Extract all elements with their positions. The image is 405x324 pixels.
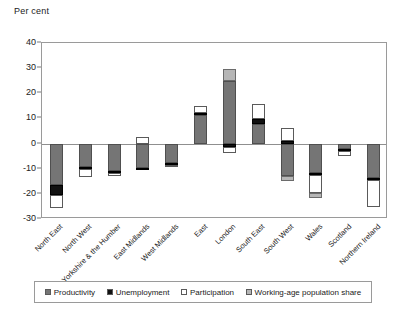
y-axis-tick-mark [37,167,41,168]
bar-segment-productivity[interactable] [252,124,265,144]
axis-unit-label: Per cent [14,6,49,16]
bar-segment-participation[interactable] [281,128,294,140]
bar-segment-working-age-population-share[interactable] [281,176,294,181]
bar-segment-unemployment[interactable] [194,113,207,115]
legend-swatch-icon [107,289,113,295]
bar-segment-participation[interactable] [309,175,322,193]
y-axis-tick-mark [37,67,41,68]
y-axis-tick-mark [37,218,41,219]
y-axis-tick-mark [37,192,41,193]
bar-segment-participation[interactable] [108,173,121,176]
bar-segment-participation[interactable] [136,137,149,144]
plot-area [42,43,386,217]
bar-group[interactable] [223,43,236,217]
legend-swatch-icon [181,289,187,295]
bar-segment-productivity[interactable] [309,144,322,174]
bar-segment-unemployment[interactable] [50,185,63,195]
y-axis-tick-label: 20 [6,87,36,97]
legend-label: Unemployment [116,288,170,297]
bar-segment-participation[interactable] [79,169,92,177]
bar-segment-participation[interactable] [165,165,178,167]
bar-segment-participation[interactable] [194,106,207,113]
y-axis-tick-mark [37,42,41,43]
legend-item[interactable]: Working-age population share [246,288,362,297]
bar-segment-productivity[interactable] [223,81,236,144]
bar-segment-productivity[interactable] [367,144,380,179]
legend-item[interactable]: Participation [181,288,234,297]
bar-group[interactable] [338,43,351,217]
legend-swatch-icon [45,289,51,295]
y-axis-tick-label: -10 [6,163,36,173]
y-axis-tick-label: 10 [6,112,36,122]
legend-item[interactable]: Productivity [45,288,95,297]
y-axis-tick-mark [37,142,41,143]
bar-segment-productivity[interactable] [165,144,178,163]
bar-segment-productivity[interactable] [136,144,149,168]
legend-label: Working-age population share [255,288,362,297]
bar-segment-productivity[interactable] [194,115,207,144]
bar-segment-participation[interactable] [223,147,236,153]
bar-segment-productivity[interactable] [281,144,294,177]
bar-segment-participation[interactable] [367,180,380,207]
plot-frame [41,42,387,218]
bar-group[interactable] [252,43,265,217]
y-axis-tick-label: 0 [6,138,36,148]
bar-segment-participation[interactable] [252,104,265,118]
bar-group[interactable] [367,43,380,217]
bar-group[interactable] [108,43,121,217]
chart-legend: ProductivityUnemploymentParticipationWor… [34,281,372,303]
bar-group[interactable] [50,43,63,217]
bar-group[interactable] [79,43,92,217]
y-axis-tick-label: 40 [6,37,36,47]
legend-label: Productivity [54,288,95,297]
y-axis-tick-mark [37,117,41,118]
bar-segment-participation[interactable] [338,151,351,155]
legend-swatch-icon [246,289,252,295]
bar-group[interactable] [194,43,207,217]
bar-segment-productivity[interactable] [50,144,63,185]
bar-segment-participation[interactable] [50,195,63,208]
bar-segment-productivity[interactable] [79,144,92,168]
y-axis-tick-label: -20 [6,188,36,198]
chart-figure: Per cent -30-20-10010203040 North EastNo… [0,0,405,324]
bar-group[interactable] [136,43,149,217]
y-axis-tick-label: 30 [6,62,36,72]
bar-segment-productivity[interactable] [108,144,121,171]
zero-line [42,144,386,145]
y-axis-tick-mark [37,92,41,93]
bar-group[interactable] [309,43,322,217]
y-axis-tick-label: -30 [6,213,36,223]
bar-segment-unemployment[interactable] [136,168,149,170]
legend-item[interactable]: Unemployment [107,288,170,297]
bar-segment-working-age-population-share[interactable] [309,193,322,198]
bar-group[interactable] [165,43,178,217]
bar-group[interactable] [281,43,294,217]
legend-label: Participation [190,288,234,297]
bar-segment-working-age-population-share[interactable] [223,69,236,81]
bar-segment-unemployment[interactable] [252,119,265,124]
bar-segment-unemployment[interactable] [281,141,294,144]
